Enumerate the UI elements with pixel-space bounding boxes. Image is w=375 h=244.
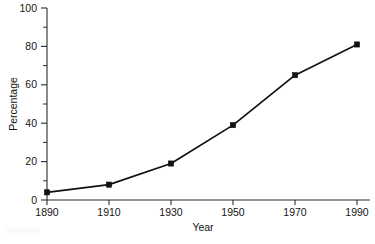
data-point-1890 — [44, 190, 49, 195]
y-tick-label-0: 0 — [31, 194, 37, 206]
scan-artifact — [6, 228, 40, 235]
data-point-1970 — [292, 73, 297, 78]
line-chart: 0 20 40 60 80 100 1890 1910 1930 1950 19… — [0, 0, 375, 244]
y-tick-label-20: 20 — [25, 155, 37, 167]
y-axis-minor-ticks — [43, 27, 47, 181]
y-tick-label-60: 60 — [25, 78, 37, 90]
x-axis-ticks — [47, 200, 357, 205]
y-tick-label-100: 100 — [19, 2, 37, 14]
y-tick-label-40: 40 — [25, 117, 37, 129]
data-point-1990 — [354, 42, 359, 47]
data-point-1930 — [168, 161, 173, 166]
x-tick-label-1890: 1890 — [35, 206, 59, 218]
data-point-1950 — [230, 123, 235, 128]
x-tick-label-1950: 1950 — [221, 206, 245, 218]
x-tick-label-1970: 1970 — [283, 206, 307, 218]
data-point-1910 — [106, 182, 111, 187]
x-tick-label-1930: 1930 — [159, 206, 183, 218]
chart-container: 0 20 40 60 80 100 1890 1910 1930 1950 19… — [0, 0, 375, 244]
y-axis-title: Percentage — [7, 77, 19, 131]
series-line-percentage — [47, 44, 357, 192]
x-tick-label-1990: 1990 — [345, 206, 369, 218]
series-markers — [44, 42, 359, 195]
x-tick-label-1910: 1910 — [97, 206, 121, 218]
y-tick-label-80: 80 — [25, 40, 37, 52]
x-axis-title: Year — [192, 221, 214, 233]
